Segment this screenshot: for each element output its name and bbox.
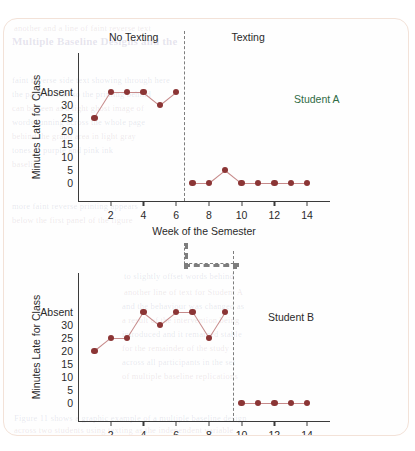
y-axis-line (78, 53, 79, 201)
phase-change-line (184, 31, 185, 201)
data-point (173, 309, 179, 315)
data-point (206, 335, 212, 341)
phase-connector-vertical-bottom (233, 263, 237, 269)
data-point (238, 180, 244, 186)
x-tick-label: 2 (108, 209, 114, 221)
y-tick-label: 25 (61, 332, 73, 344)
data-point (189, 309, 195, 315)
x-axis-line (78, 421, 330, 422)
data-line-segment (127, 312, 144, 339)
series-label-student-b: Student B (268, 311, 314, 323)
x-tick-label: 8 (206, 209, 212, 221)
chart-panel-student-b: Minutes Late for Class Week of the Semes… (4, 247, 409, 436)
x-tick-mark (176, 201, 177, 206)
x-tick-mark (208, 421, 209, 426)
x-axis-line (78, 201, 330, 202)
y-tick-label: 0 (67, 397, 73, 409)
x-axis-title: Week of the Semester (78, 225, 330, 237)
data-point (140, 89, 146, 95)
data-point (173, 89, 179, 95)
scanned-page-card: another and a line of faint reverse text… (3, 18, 409, 436)
x-tick-label: 14 (301, 209, 313, 221)
data-point (206, 180, 212, 186)
y-tick-label: 15 (61, 138, 73, 150)
phase-label: Texting (232, 31, 265, 43)
data-point (157, 102, 163, 108)
x-tick-label: 4 (141, 429, 147, 436)
x-tick-label: 6 (173, 209, 179, 221)
x-tick-label: 8 (206, 429, 212, 436)
y-tick-label: 5 (67, 164, 73, 176)
phase-label: No Texting (109, 31, 158, 43)
x-tick-mark (274, 421, 275, 426)
plot-area-student-b: Minutes Late for Class Week of the Semes… (78, 273, 326, 413)
data-point (255, 180, 261, 186)
data-point (288, 180, 294, 186)
x-tick-mark (274, 201, 275, 206)
screenshot-root: { "page": { "border_color": "#f3e2d8", "… (0, 0, 415, 451)
x-tick-mark (307, 201, 308, 206)
x-tick-label: 10 (236, 209, 248, 221)
data-point (157, 322, 163, 328)
chart-panel-student-a: Minutes Late for Class Week of the Semes… (4, 27, 409, 227)
y-axis-title-wrap: Minutes Late for Class (30, 273, 42, 421)
x-tick-label: 14 (301, 429, 313, 436)
y-tick-label: 20 (61, 125, 73, 137)
data-point (238, 400, 244, 406)
x-tick-mark (307, 421, 308, 426)
data-point (91, 348, 97, 354)
x-tick-mark (110, 421, 111, 426)
data-point (288, 400, 294, 406)
data-point (304, 180, 310, 186)
data-point (91, 115, 97, 121)
x-tick-mark (241, 421, 242, 426)
phase-connector-horizontal (184, 263, 239, 267)
y-axis-line (78, 273, 79, 421)
series-label-student-a: Student A (294, 93, 340, 105)
data-point (108, 89, 114, 95)
y-tick-label: 30 (61, 319, 73, 331)
x-tick-label: 2 (108, 429, 114, 436)
y-tick-label: 15 (61, 358, 73, 370)
data-point (271, 400, 277, 406)
y-tick-label: 5 (67, 384, 73, 396)
data-point (255, 400, 261, 406)
y-tick-label: 30 (61, 99, 73, 111)
data-point (271, 180, 277, 186)
data-point (108, 335, 114, 341)
data-point (124, 89, 130, 95)
y-tick-label: 10 (61, 371, 73, 383)
x-tick-mark (208, 201, 209, 206)
data-point (189, 180, 195, 186)
data-point (304, 400, 310, 406)
x-tick-mark (143, 421, 144, 426)
x-tick-label: 12 (269, 209, 281, 221)
y-tick-label: 10 (61, 151, 73, 163)
data-point (140, 309, 146, 315)
x-tick-label: 10 (236, 429, 248, 436)
x-tick-mark (241, 201, 242, 206)
y-tick-label: 0 (67, 177, 73, 189)
data-point (222, 309, 228, 315)
x-tick-mark (110, 201, 111, 206)
y-tick-label: 20 (61, 345, 73, 357)
x-tick-label: 6 (173, 429, 179, 436)
x-tick-mark (143, 201, 144, 206)
x-tick-mark (176, 421, 177, 426)
y-tick-label: Absent (40, 86, 73, 98)
data-point (124, 335, 130, 341)
x-tick-label: 4 (141, 209, 147, 221)
y-tick-label: 25 (61, 112, 73, 124)
phase-change-line (233, 251, 234, 421)
y-axis-title-wrap: Minutes Late for Class (30, 53, 42, 201)
plot-area-student-a: Minutes Late for Class Week of the Semes… (78, 53, 326, 193)
x-tick-label: 12 (269, 429, 281, 436)
y-tick-label: Absent (40, 306, 73, 318)
